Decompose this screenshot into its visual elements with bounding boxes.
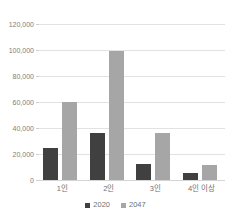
bar-group — [132, 24, 179, 180]
bar-group — [86, 24, 133, 180]
bar-2047-1인 — [62, 102, 77, 180]
legend-swatch-icon — [121, 203, 126, 208]
bar-2047-2인 — [109, 51, 124, 180]
axis-baseline — [39, 180, 225, 181]
legend-label: 2047 — [129, 201, 146, 209]
y-axis-tick-label: 100,000 — [0, 47, 34, 54]
legend-label: 2020 — [93, 201, 110, 209]
chart-title — [0, 0, 231, 1]
x-axis-tick-label: 1인 — [39, 184, 86, 194]
x-axis: 1인2인3인4인 이상 — [39, 184, 225, 196]
y-axis-tick-label: 80,000 — [0, 73, 34, 80]
legend-entry-2047[interactable]: 2047 — [121, 201, 146, 209]
y-axis-tick-label: 120,000 — [0, 21, 34, 28]
x-axis-tick-label: 3인 — [132, 184, 179, 194]
y-axis-tick-label: 40,000 — [0, 125, 34, 132]
bar-2020-1인 — [43, 148, 58, 180]
bars-layer — [39, 24, 225, 180]
bar-2020-3인 — [136, 164, 151, 180]
y-axis-tick-label: 20,000 — [0, 151, 34, 158]
bar-group — [39, 24, 86, 180]
y-axis-tick-label: 60,000 — [0, 99, 34, 106]
bar-2047-3인 — [155, 133, 170, 180]
bar-2020-2인 — [90, 133, 105, 180]
bar-2020-4인 이상 — [183, 173, 198, 180]
y-axis-tick-label: 0 — [0, 177, 34, 184]
legend-entry-2020[interactable]: 2020 — [85, 201, 110, 209]
x-axis-tick-label: 4인 이상 — [179, 184, 226, 194]
bar-chart: 120,000100,00080,00060,00040,00020,0000 … — [0, 0, 231, 216]
legend-swatch-icon — [85, 203, 90, 208]
bar-2047-4인 이상 — [202, 165, 217, 180]
chart-legend: 20202047 — [0, 201, 231, 209]
x-axis-tick-label: 2인 — [86, 184, 133, 194]
bar-group — [179, 24, 226, 180]
